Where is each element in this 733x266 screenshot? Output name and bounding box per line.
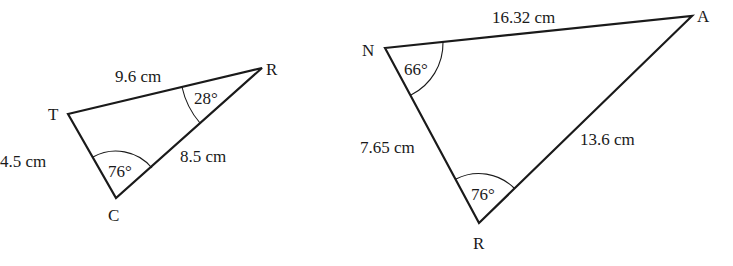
vertex-label-c: C	[108, 206, 119, 225]
vertex-label-n: N	[362, 41, 374, 60]
side-label-tr: 9.6 cm	[115, 67, 161, 86]
angle-label-c: 76°	[108, 162, 132, 181]
side-label-na: 16.32 cm	[492, 8, 555, 27]
side-label-rc: 8.5 cm	[180, 147, 226, 166]
side-label-nr: 7.65 cm	[360, 138, 415, 157]
triangle-nar-outline	[385, 16, 692, 223]
triangle-trc: T R C 9.6 cm 4.5 cm 8.5 cm 28° 76°	[0, 60, 278, 225]
angle-label-r-right: 76°	[471, 185, 495, 204]
diagram-canvas: T R C 9.6 cm 4.5 cm 8.5 cm 28° 76° N A R…	[0, 0, 733, 266]
vertex-label-t: T	[48, 105, 59, 124]
vertex-label-r-right: R	[473, 234, 485, 253]
vertex-label-r: R	[266, 60, 278, 79]
similar-triangles-diagram: T R C 9.6 cm 4.5 cm 8.5 cm 28° 76° N A R…	[0, 0, 733, 266]
side-label-tc: 4.5 cm	[0, 152, 46, 171]
triangle-nar: N A R 16.32 cm 7.65 cm 13.6 cm 66° 76°	[360, 7, 710, 253]
vertex-label-a: A	[697, 7, 710, 26]
angle-label-r-left: 28°	[194, 89, 218, 108]
side-label-ar: 13.6 cm	[580, 130, 635, 149]
angle-label-n: 66°	[404, 60, 428, 79]
triangle-trc-outline	[68, 68, 262, 198]
